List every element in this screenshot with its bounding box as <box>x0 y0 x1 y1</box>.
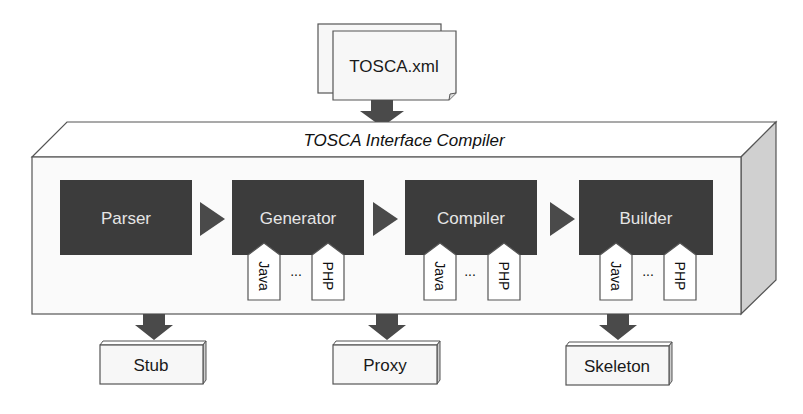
stage-label: Compiler <box>437 209 505 228</box>
tag-label: Java <box>608 261 624 291</box>
tag-label: PHP <box>672 262 688 291</box>
tag-php: PHP <box>312 243 344 300</box>
tag-java: Java <box>600 243 632 300</box>
output-stub: Stub <box>100 341 206 384</box>
tag-label: PHP <box>496 262 512 291</box>
output-skeleton: Skeleton <box>566 342 672 385</box>
compiler-title: TOSCA Interface Compiler <box>303 131 506 150</box>
ellipsis: ... <box>290 263 302 279</box>
tag-label: Java <box>256 261 272 291</box>
ellipsis: ... <box>642 263 654 279</box>
tag-label: PHP <box>320 262 336 291</box>
output-label: Stub <box>134 356 169 375</box>
tag-java: Java <box>248 243 280 300</box>
output-label: Skeleton <box>584 357 650 376</box>
stage-label: Builder <box>620 209 673 228</box>
stage-parser: Parser <box>60 180 192 255</box>
output-proxy: Proxy <box>333 341 440 384</box>
output-arrow-icon <box>599 314 637 340</box>
output-arrow-icon <box>368 314 406 340</box>
input-label: TOSCA.xml <box>349 57 438 76</box>
tag-label: Java <box>432 261 448 291</box>
output-label: Proxy <box>363 356 407 375</box>
stage-label: Generator <box>260 209 337 228</box>
tag-java: Java <box>424 243 456 300</box>
input-document-stack: TOSCA.xml <box>318 24 456 100</box>
tag-php: PHP <box>664 243 696 300</box>
ellipsis: ... <box>464 263 476 279</box>
stage-label: Parser <box>101 209 151 228</box>
output-arrow-icon <box>135 314 173 340</box>
diagram-canvas: TOSCA.xml TOSCA Interface Compiler Parse… <box>0 0 803 414</box>
tag-php: PHP <box>488 243 520 300</box>
